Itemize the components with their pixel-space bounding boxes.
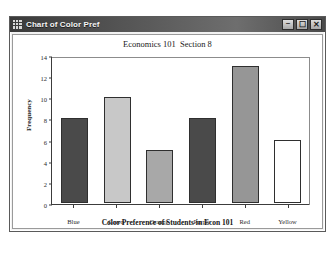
plot-region: 02468101214 (51, 57, 309, 205)
y-tick: 12 (41, 75, 53, 82)
chart-window: Chart of Color Pref – ☐ ✕ Economics 101 … (9, 16, 326, 232)
window-title: Chart of Color Pref (26, 17, 99, 32)
bar-yellow[interactable] (274, 140, 301, 203)
bar-cell (181, 57, 224, 203)
bar-cell (96, 57, 139, 203)
maximize-button[interactable]: ☐ (296, 19, 308, 30)
bar-orange[interactable] (146, 150, 173, 203)
y-tick-label: 12 (41, 75, 48, 82)
minimize-icon: – (283, 20, 293, 29)
y-tick-mark (49, 183, 52, 184)
y-tick-label: 14 (41, 54, 48, 61)
x-tick-mark (159, 205, 160, 208)
y-tick-label: 10 (41, 96, 48, 103)
bar-cell (224, 57, 267, 203)
y-tick-mark (49, 78, 52, 79)
bar-chart: Economics 101 Section 8 Frequency 024681… (13, 35, 322, 228)
x-tick-mark (288, 205, 289, 208)
y-tick: 4 (44, 159, 52, 166)
y-axis-label: Frequency (25, 99, 33, 131)
y-tick-mark (49, 120, 52, 121)
x-tick-mark (73, 205, 74, 208)
plot-frame-right (309, 57, 310, 205)
y-tick: 14 (41, 54, 53, 61)
bar-red[interactable] (232, 66, 259, 203)
y-tick-mark (49, 162, 52, 163)
y-tick-mark (49, 57, 52, 58)
bar-green[interactable] (104, 97, 131, 203)
y-tick: 8 (44, 117, 52, 124)
y-tick: 6 (44, 138, 52, 145)
window-client-area: Economics 101 Section 8 Frequency 024681… (12, 34, 323, 229)
x-tick-mark (202, 205, 203, 208)
bar-blue[interactable] (61, 118, 88, 203)
grid-icon (13, 20, 22, 29)
y-tick-mark (49, 141, 52, 142)
close-icon: ✕ (311, 20, 321, 29)
x-tick-mark (245, 205, 246, 208)
bar-cell (53, 57, 96, 203)
window-controls: – ☐ ✕ (282, 19, 324, 30)
minimize-button[interactable]: – (282, 19, 294, 30)
y-tick-label: 0 (44, 202, 47, 209)
y-tick-label: 2 (44, 180, 47, 187)
y-tick-label: 4 (44, 159, 47, 166)
y-tick-label: 8 (44, 117, 47, 124)
y-tick: 10 (41, 96, 53, 103)
chart-title: Economics 101 Section 8 (13, 39, 322, 49)
x-axis-label: Color Preference of Students in Econ 101 (13, 218, 322, 227)
close-button[interactable]: ✕ (310, 19, 322, 30)
bar-series (53, 57, 309, 203)
x-tick-mark (116, 205, 117, 208)
y-tick: 2 (44, 180, 52, 187)
y-tick: 0 (44, 202, 52, 209)
maximize-icon: ☐ (297, 20, 307, 29)
window-titlebar[interactable]: Chart of Color Pref – ☐ ✕ (10, 17, 325, 32)
y-tick-mark (49, 99, 52, 100)
bar-cell (138, 57, 181, 203)
bar-purple[interactable] (189, 118, 216, 203)
bar-cell (266, 57, 309, 203)
y-tick-label: 6 (44, 138, 47, 145)
